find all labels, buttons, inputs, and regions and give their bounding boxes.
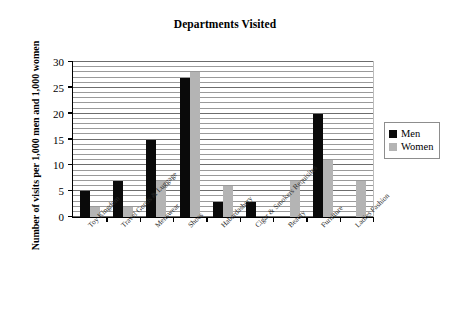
chart-legend: MenWomen	[384, 122, 440, 159]
legend-swatch-women	[389, 143, 397, 151]
gridline	[73, 113, 373, 114]
y-axis-label: 25	[42, 82, 64, 94]
y-axis-label: 30	[42, 56, 64, 68]
y-axis-label: 20	[42, 108, 64, 120]
plot-frame-top	[73, 61, 373, 62]
x-axis-tick	[206, 217, 207, 222]
bar-men	[213, 202, 223, 218]
x-axis-tick	[373, 217, 374, 222]
x-axis-tick	[140, 217, 141, 222]
gridline	[73, 66, 373, 67]
bar-women	[323, 160, 333, 217]
y-axis-label: 5	[42, 185, 64, 197]
y-axis-label: 0	[42, 211, 64, 223]
gridline	[73, 154, 373, 155]
x-axis-tick	[273, 217, 274, 222]
legend-label: Women	[401, 142, 433, 153]
x-axis-tick	[340, 217, 341, 222]
gridline	[73, 118, 373, 119]
y-axis-title: Number of visits per 1,000 men and 1,000…	[30, 31, 41, 261]
y-axis-tick	[68, 112, 73, 114]
bar-men	[180, 78, 190, 218]
gridline	[73, 144, 373, 145]
chart-title: Departments Visited	[120, 18, 330, 30]
x-axis-tick	[240, 217, 241, 222]
gridline	[73, 149, 373, 150]
y-axis-tick	[68, 164, 73, 166]
y-axis-tick	[68, 86, 73, 88]
x-axis-tick	[106, 217, 107, 222]
bar-women	[190, 72, 200, 217]
gridline	[73, 102, 373, 103]
gridline	[73, 128, 373, 129]
gridline	[73, 77, 373, 78]
y-axis-tick	[68, 138, 73, 140]
legend-item[interactable]: Women	[389, 142, 433, 153]
y-axis-tick	[68, 61, 73, 63]
gridline	[73, 123, 373, 124]
legend-label: Men	[401, 129, 420, 140]
gridline	[73, 139, 373, 140]
gridline	[73, 97, 373, 98]
bar-men	[80, 191, 90, 217]
gridline	[73, 108, 373, 109]
gridline	[73, 92, 373, 93]
gridline	[73, 82, 373, 83]
y-axis-label: 10	[42, 159, 64, 171]
y-axis-tick	[68, 216, 73, 218]
legend-swatch-men	[389, 130, 397, 138]
chart-container: Departments Visited Number of visits per…	[0, 0, 461, 321]
legend-item[interactable]: Men	[389, 129, 433, 140]
plot-frame-right	[373, 61, 374, 217]
y-axis-label: 15	[42, 134, 64, 146]
plot-area	[72, 62, 373, 218]
gridline	[73, 133, 373, 134]
x-axis-tick	[173, 217, 174, 222]
gridline	[73, 87, 373, 88]
y-axis-tick	[68, 190, 73, 192]
gridline	[73, 71, 373, 72]
x-axis-tick	[306, 217, 307, 222]
